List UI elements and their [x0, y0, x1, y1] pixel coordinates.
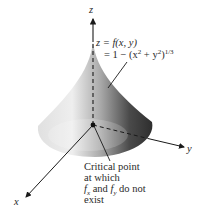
equation-line-1: z = f(x, y): [96, 37, 137, 48]
y-axis: [150, 139, 184, 147]
y-axis-label: y: [187, 143, 192, 154]
annotation-line-3: fx and fy do not: [84, 183, 146, 194]
annotation-rest: do not: [116, 183, 145, 194]
annotation-line-1: Critical point: [84, 161, 140, 172]
equation-leader-line: [108, 62, 127, 88]
equation-part: + y: [141, 49, 157, 60]
cone-base-shade: [48, 119, 128, 151]
equation-line-2: = 1 − (x2 + y2)1/3: [104, 49, 174, 60]
annotation-and: and: [90, 183, 110, 194]
z-axis-label: z: [89, 4, 93, 15]
equation-fx: z = f(x, y): [96, 37, 137, 48]
equation-part: = 1 − (x: [104, 49, 138, 60]
annotation-line-4: exist: [84, 194, 104, 205]
equation-exponent: 1/3: [165, 48, 174, 56]
annotation-line-2: at which: [84, 172, 120, 183]
x-axis-label: x: [14, 196, 19, 207]
